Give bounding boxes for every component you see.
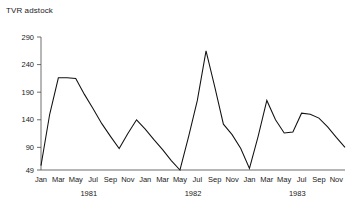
x-month-label: Jul (88, 175, 98, 184)
x-month-label: May (69, 175, 83, 184)
y-tick-label: 49 (26, 166, 34, 175)
x-month-label: Mar (260, 175, 273, 184)
x-axis-year-labels: 198119821983 (80, 189, 305, 198)
x-month-label: May (277, 175, 291, 184)
x-month-label: Jan (243, 175, 255, 184)
x-axis: JanMarMayJulSepNovJanMarMayJulSepNovJanM… (35, 170, 345, 198)
x-year-label: 1981 (80, 189, 97, 198)
y-axis: 4990140190240290 (21, 33, 41, 175)
x-month-label: Sep (312, 175, 325, 184)
y-tick-label: 190 (21, 88, 34, 97)
y-tick-label: 140 (21, 115, 34, 124)
x-month-label: Jul (193, 175, 203, 184)
y-tick-label: 240 (21, 60, 34, 69)
x-year-label: 1983 (289, 189, 306, 198)
data-series-line (41, 51, 345, 170)
x-year-label: 1982 (185, 189, 202, 198)
line-chart: 4990140190240290 JanMarMayJulSepNovJanMa… (0, 0, 352, 217)
x-month-label: May (173, 175, 187, 184)
chart-container: TVR adstock 4990140190240290 JanMarMayJu… (0, 0, 352, 217)
x-month-label: Jul (297, 175, 307, 184)
x-month-label: Mar (156, 175, 169, 184)
x-month-label: Sep (104, 175, 117, 184)
x-month-label: Nov (121, 175, 135, 184)
x-month-label: Mar (52, 175, 65, 184)
x-month-label: Sep (208, 175, 221, 184)
y-axis-ticks (37, 37, 41, 170)
x-axis-month-labels: JanMarMayJulSepNovJanMarMayJulSepNovJanM… (35, 175, 343, 184)
y-tick-label: 290 (21, 33, 34, 42)
x-month-label: Nov (225, 175, 239, 184)
x-month-label: Jan (35, 175, 47, 184)
y-axis-tick-labels: 4990140190240290 (21, 33, 34, 175)
y-tick-label: 90 (26, 143, 34, 152)
x-month-label: Nov (330, 175, 344, 184)
x-month-label: Jan (139, 175, 151, 184)
